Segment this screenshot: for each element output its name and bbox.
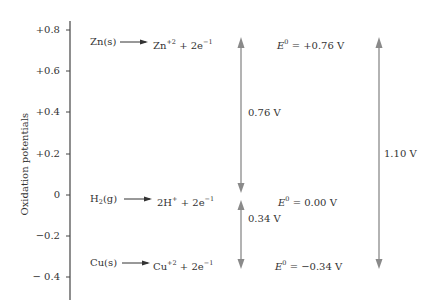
zn-reactant: Zn(s) <box>90 36 116 48</box>
double-arrow-1-10 <box>376 37 383 269</box>
tick-label-0-8: +0.8 <box>20 24 60 36</box>
diff-label-1-10: 1.10 V <box>384 148 417 160</box>
cu-potential: E0 = −0.34 V <box>275 257 342 273</box>
tick-label-neg-0-2: −0.2 <box>20 230 60 242</box>
tick-label-0-2: +0.2 <box>20 148 60 160</box>
h2-potential: E0 = 0.00 V <box>278 193 337 209</box>
diff-label-0-34: 0.34 V <box>248 213 281 225</box>
cu-product: Cu+2 + 2e−1 <box>153 257 213 273</box>
diagram-graphics <box>0 0 428 305</box>
h2-product: 2H+ + 2e−1 <box>157 193 214 209</box>
tick-label-0-4: +0.4 <box>20 106 60 118</box>
double-arrow-0-76 <box>238 37 245 193</box>
reaction-arrows <box>120 40 152 266</box>
h2-reactant: H2(g) <box>90 193 117 208</box>
tick-label-0-6: +0.6 <box>20 65 60 77</box>
cu-reactant: Cu(s) <box>90 257 117 269</box>
zn-product: Zn+2 + 2e−1 <box>153 36 213 52</box>
zn-potential: E0 = +0.76 V <box>277 36 344 52</box>
tick-label-neg-0-4: − 0.4 <box>20 271 60 283</box>
tick-label-0: 0 <box>20 189 60 201</box>
diff-label-0-76: 0.76 V <box>248 107 281 119</box>
double-arrow-0-34 <box>238 200 245 269</box>
